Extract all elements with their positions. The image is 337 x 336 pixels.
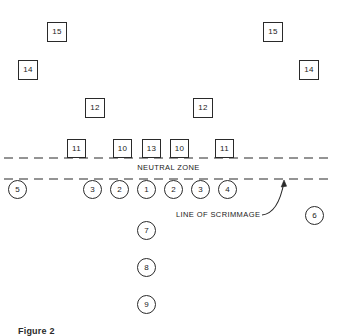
line-of-scrimmage-label: LINE OF SCRIMMAGE: [176, 211, 260, 219]
offense-1-center: 1: [137, 180, 156, 199]
defender-10-left: 10: [113, 139, 132, 158]
line-of-scrimmage-arrowhead: [281, 180, 286, 187]
defender-10-right: 10: [170, 139, 189, 158]
neutral-zone-label: NEUTRAL ZONE: [0, 164, 337, 172]
defender-13-center: 13: [142, 139, 161, 158]
line-of-scrimmage-leader: [262, 182, 284, 215]
offense-5-left-end: 5: [8, 180, 27, 199]
offense-2-left: 2: [110, 180, 129, 199]
defender-12-left: 12: [85, 98, 105, 118]
figure-caption: Figure 2: [18, 326, 55, 336]
defender-11-right: 11: [215, 139, 234, 158]
defender-11-left: 11: [67, 139, 86, 158]
offense-6-right-flank: 6: [305, 206, 324, 225]
offense-8-backfield: 8: [137, 258, 156, 277]
defender-15-left: 15: [47, 22, 67, 42]
offense-3-left: 3: [83, 180, 102, 199]
defender-12-right: 12: [193, 98, 213, 118]
offense-3-right: 3: [191, 180, 210, 199]
offense-2-right: 2: [164, 180, 183, 199]
defender-15-right: 15: [263, 22, 283, 42]
offense-9-backfield: 9: [137, 295, 156, 314]
offense-7-backfield: 7: [137, 221, 156, 240]
defender-14-right: 14: [299, 60, 319, 80]
offense-4-right: 4: [218, 180, 237, 199]
football-formation-figure: NEUTRAL ZONE LINE OF SCRIMMAGE 151514141…: [0, 0, 337, 336]
defender-14-left: 14: [18, 60, 38, 80]
